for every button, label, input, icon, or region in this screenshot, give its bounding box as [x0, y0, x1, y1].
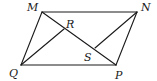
label-R: R — [65, 18, 74, 31]
parallelogram-diagram: M N Q P R S — [0, 0, 157, 81]
label-N: N — [140, 1, 151, 14]
label-M: M — [26, 1, 39, 14]
side-QM — [21, 12, 42, 65]
segment-QR — [21, 29, 64, 65]
label-P: P — [114, 69, 123, 81]
label-Q: Q — [9, 67, 18, 80]
label-S: S — [84, 51, 92, 64]
segment-NS — [95, 12, 137, 48]
side-NP — [116, 12, 137, 65]
